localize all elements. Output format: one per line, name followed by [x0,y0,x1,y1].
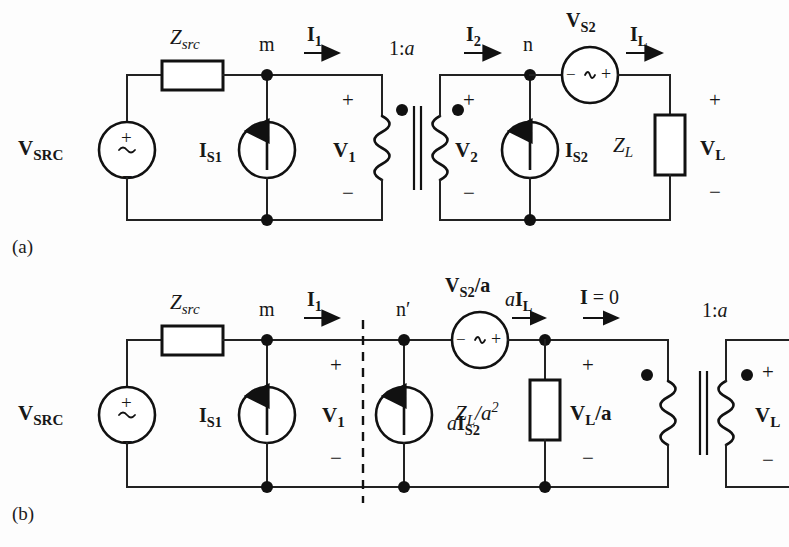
polarity-dot-a-primary [396,104,408,116]
panel-a-circuit [99,47,685,226]
label-vs2-a: VS2 [566,10,596,34]
node-dot-a-bottom [261,214,273,226]
label-zsrc-b: Zsrc [170,292,200,317]
transformer-b-secondary-coil [719,381,734,445]
label-transformer-ratio-b: 1:a [702,300,728,320]
impedance-zl-a [655,115,685,175]
label-v1-b: V1 [322,405,345,430]
label-current-il-a: IL [630,24,647,48]
transformer-a-secondary-coil [433,116,448,180]
vl-a-plus-sign: + [709,90,721,111]
vl-a-minus-sign: − [709,182,721,203]
label-zsrc-a: Zsrc [170,27,200,52]
node-dot-b-bottom-mid [398,481,410,493]
label-vl-a: VL [700,138,725,163]
panel-tag-b: (b) [12,503,34,525]
label-is1-b: IS1 [199,405,222,429]
label-current-i2-a: I2 [466,24,481,48]
node-dot-a-bottom-right [524,214,536,226]
label-vl-b: VL [755,405,780,430]
panel-tag-a: (a) [12,236,33,258]
node-dot-b-bottom-left [261,481,273,493]
polarity-dot-b-secondary [741,369,753,381]
label-current-i1-a: I1 [307,24,322,48]
vs2-over-a-minus-sign: − [456,331,466,348]
label-is1-a: IS1 [199,140,222,164]
label-transformer-ratio-a: 1:a [389,38,415,58]
label-node-n-a: n [523,34,533,54]
polarity-dot-b-primary [641,369,653,381]
vsrc-b-minus-sign: − [122,432,133,451]
vsrc-a-plus-sign: + [121,128,132,147]
label-current-ail-b: aIL [505,289,532,313]
v1-a-minus-sign: − [342,183,354,204]
label-vl-over-a-b: VL/a [570,403,612,428]
label-vsrc-a: VSRC [18,138,63,163]
vsrc-a-minus-sign: − [122,167,133,186]
label-current-i-zero-b: I = 0 [580,287,619,307]
figure-root: (a) Zsrc VSRC + − m I1 IS1 + V1 − 1:a I2… [0,0,789,547]
label-zl-over-a2-b: ZL/a2 [455,400,499,428]
vl-b-plus-sign: + [762,362,774,383]
impedance-zl-over-a2-b [530,380,560,440]
v1-b-plus-sign: + [330,355,342,376]
vs2-a-plus-sign: + [601,65,611,83]
v2-a-plus-sign: + [463,90,475,111]
node-dot-b-bottom-load [539,481,551,493]
impedance-zsrc-b [162,326,223,355]
label-is2-a: IS2 [565,140,588,164]
vl-over-a-plus-sign: + [582,355,594,376]
transformer-a-primary-coil [375,116,390,180]
vl-b-minus-sign: − [762,450,774,471]
transformer-b-primary-coil [661,381,676,445]
label-node-n-prime-b: n′ [396,299,410,319]
label-v2-a: V2 [455,140,478,165]
v1-a-plus-sign: + [342,90,354,111]
label-zl-a: ZL [613,135,633,160]
node-dot-m-b [261,334,273,346]
vsrc-b-plus-sign: + [121,393,132,412]
label-vsrc-b: VSRC [18,403,63,428]
vs2-a-minus-sign: − [566,66,576,83]
label-vs2-over-a-b: VS2/a [445,275,490,299]
label-node-m-b: m [259,299,275,319]
v1-b-minus-sign: − [330,448,342,469]
vl-over-a-minus-sign: − [582,448,594,469]
label-current-i1-b: I1 [307,289,322,313]
label-node-m-a: m [259,34,275,54]
impedance-zsrc-a [162,61,223,90]
vs2-over-a-plus-sign: + [491,330,501,348]
node-dot-n-prime-b [398,334,410,346]
node-dot-m-a [261,69,273,81]
label-v1-a: V1 [333,140,356,165]
circuit-drawing-layer [0,0,789,547]
v2-a-minus-sign: − [463,183,475,204]
